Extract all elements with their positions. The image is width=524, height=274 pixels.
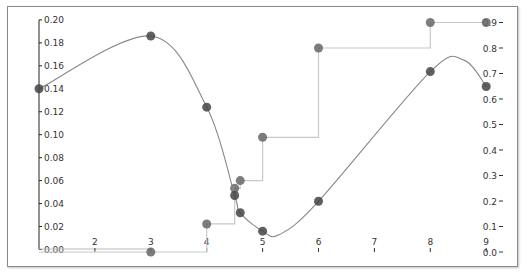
left-tick-label: 0.14 [44, 84, 64, 94]
left-tick-label: 0.06 [44, 176, 64, 186]
step-marker [258, 133, 267, 142]
right-tick-label: 0.8 [483, 44, 498, 54]
left-tick-label: 0.10 [44, 130, 64, 140]
left-tick-label: 0.16 [44, 61, 64, 71]
left-tick-label: 0.02 [44, 222, 64, 232]
curve-marker [236, 208, 245, 217]
left-tick-label: 0.00 [44, 245, 64, 255]
right-tick-label: 0.5 [483, 120, 497, 130]
chart-canvas: 0.000.020.040.060.080.100.120.140.160.18… [0, 0, 524, 274]
x-tick-label: 8 [427, 237, 433, 247]
curve-marker [35, 84, 44, 93]
x-tick-label: 3 [148, 237, 154, 247]
curve-marker [426, 67, 435, 76]
right-tick-label: 0.0 [483, 248, 498, 258]
step-marker [426, 18, 435, 27]
left-tick-label: 0.04 [44, 199, 64, 209]
curve-marker [482, 82, 491, 91]
x-tick-label: 5 [260, 237, 266, 247]
x-tick-label: 2 [92, 237, 98, 247]
x-tick-label: 7 [372, 237, 378, 247]
step-marker [314, 44, 323, 53]
right-tick-label: 0.7 [483, 69, 497, 79]
curve-marker [202, 103, 211, 112]
curve-marker [230, 191, 239, 200]
right-tick-label: 0.4 [483, 146, 498, 156]
right-tick-label: 0.2 [483, 197, 497, 207]
curve-marker [258, 227, 267, 236]
step-marker [146, 248, 155, 257]
right-y-axis: 0.00.10.20.30.40.50.60.70.80.9 [483, 18, 503, 258]
right-tick-label: 0.6 [483, 95, 498, 105]
step-marker [236, 176, 245, 185]
left-tick-label: 0.18 [44, 38, 64, 48]
right-tick-label: 0.3 [483, 171, 497, 181]
step-series [39, 18, 491, 257]
right-tick-label: 0.1 [483, 222, 497, 232]
curve-marker [146, 31, 155, 40]
left-tick-label: 0.08 [44, 153, 64, 163]
left-tick-label: 0.12 [44, 107, 64, 117]
step-marker [482, 18, 491, 27]
x-tick-label: 9 [483, 237, 489, 247]
step-marker [202, 219, 211, 228]
curve-marker [314, 197, 323, 206]
left-tick-label: 0.20 [44, 15, 64, 25]
left-y-axis: 0.000.020.040.060.080.100.120.140.160.18… [39, 15, 64, 255]
x-axis: 23456789 [39, 237, 489, 252]
x-tick-label: 6 [316, 237, 322, 247]
